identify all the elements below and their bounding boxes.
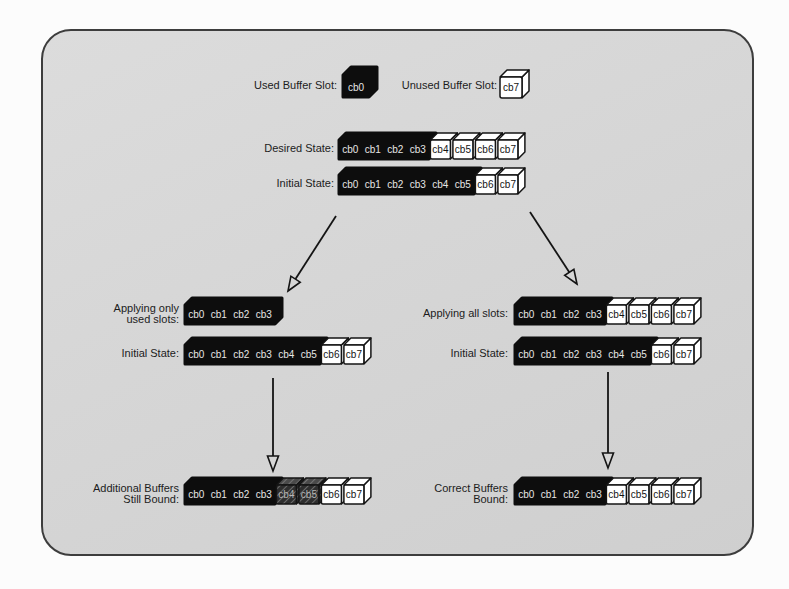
slot-label: cb0 xyxy=(188,309,205,320)
buffer-bar-initial-state-left: cb0cb1cb2cb3cb4cb5cb6cb7 xyxy=(183,336,383,368)
unused-slot-cube: cb7 xyxy=(344,338,371,364)
used-buffer-cube-icon: cb0 xyxy=(340,64,384,102)
row-label-initial-state-left: Initial State: xyxy=(122,348,179,360)
slot-label: cb7 xyxy=(500,179,517,190)
slot-label: cb3 xyxy=(586,489,603,500)
unused-slot-cube: cb7 xyxy=(674,338,701,364)
buffer-bar-additional-buffers-still-bound: cb0cb1cb2cb3cb4cb5cb6cb7 xyxy=(183,476,383,508)
row-label-line: Still Bound: xyxy=(93,494,179,506)
unused-slot-cube: cb7 xyxy=(674,478,701,504)
slot-label: cb6 xyxy=(477,179,494,190)
slot-label: cb5 xyxy=(631,349,648,360)
buffer-bar-initial-state-top: cb0cb1cb2cb3cb4cb5cb6cb7 xyxy=(337,166,537,198)
slot-label: cb2 xyxy=(563,349,580,360)
row-label-initial-state-top: Initial State: xyxy=(277,178,334,190)
slot-label: cb1 xyxy=(541,349,558,360)
slot-label: cb2 xyxy=(387,179,404,190)
buffer-bar-applying-all-slots: cb0cb1cb2cb3cb4cb5cb6cb7 xyxy=(513,296,713,328)
legend-used-label: Used Buffer Slot: xyxy=(254,80,337,92)
slot-label: cb2 xyxy=(563,489,580,500)
slot-label: cb6 xyxy=(323,489,340,500)
row-label-line: Initial State: xyxy=(277,178,334,190)
slot-label: cb1 xyxy=(541,309,558,320)
row-label-applying-all-slots: Applying all slots: xyxy=(423,308,508,320)
slot-label: cb0 xyxy=(342,144,359,155)
slot-label: cb4 xyxy=(608,309,625,320)
slot-label: cb0 xyxy=(188,349,205,360)
slot-label: cb6 xyxy=(653,489,670,500)
unused-cube-label: cb7 xyxy=(503,82,520,93)
slot-label: cb0 xyxy=(518,309,535,320)
slot-label: cb1 xyxy=(211,309,228,320)
slot-label: cb2 xyxy=(233,309,250,320)
slot-label: cb7 xyxy=(676,349,693,360)
slot-label: cb3 xyxy=(586,349,603,360)
slot-label: cb7 xyxy=(676,309,693,320)
slot-label: cb4 xyxy=(278,489,295,500)
unused-slot-cube: cb7 xyxy=(498,168,525,194)
row-label-line: Initial State: xyxy=(451,348,508,360)
slot-label: cb6 xyxy=(477,144,494,155)
slot-label: cb0 xyxy=(342,179,359,190)
slot-label: cb7 xyxy=(676,489,693,500)
slot-label: cb7 xyxy=(500,144,517,155)
buffer-bar-correct-buffers-bound: cb0cb1cb2cb3cb4cb5cb6cb7 xyxy=(513,476,713,508)
slot-label: cb2 xyxy=(387,144,404,155)
slot-label: cb6 xyxy=(653,309,670,320)
slot-label: cb5 xyxy=(631,309,648,320)
row-label-initial-state-right: Initial State: xyxy=(451,348,508,360)
slot-label: cb3 xyxy=(256,349,273,360)
slot-label: cb1 xyxy=(211,489,228,500)
slot-label: cb0 xyxy=(518,489,535,500)
row-label-line: used slots: xyxy=(114,314,179,326)
slot-label: cb4 xyxy=(432,144,449,155)
slot-label: cb4 xyxy=(278,349,295,360)
slot-label: cb6 xyxy=(323,349,340,360)
slot-label: cb3 xyxy=(256,489,273,500)
slot-label: cb6 xyxy=(653,349,670,360)
unused-slot-cube: cb7 xyxy=(498,133,525,159)
slot-label: cb2 xyxy=(563,309,580,320)
row-label-additional-buffers-still-bound: Additional BuffersStill Bound: xyxy=(93,483,179,506)
slot-label: cb5 xyxy=(301,489,318,500)
slot-label: cb2 xyxy=(233,349,250,360)
slot-label: cb1 xyxy=(541,489,558,500)
slot-label: cb2 xyxy=(233,489,250,500)
slot-label: cb5 xyxy=(301,349,318,360)
slot-label: cb5 xyxy=(631,489,648,500)
unused-slot-cube: cb7 xyxy=(344,478,371,504)
slot-label: cb1 xyxy=(365,179,382,190)
slot-label: cb4 xyxy=(608,349,625,360)
row-label-line: Desired State: xyxy=(264,143,334,155)
slot-label: cb7 xyxy=(346,489,363,500)
row-label-line: Initial State: xyxy=(122,348,179,360)
legend-unused-label: Unused Buffer Slot: xyxy=(402,80,497,92)
row-label-line: Bound: xyxy=(434,494,508,506)
slot-label: cb5 xyxy=(455,179,472,190)
row-label-line: Applying all slots: xyxy=(423,308,508,320)
buffer-bar-applying-only-used: cb0cb1cb2cb3 xyxy=(183,296,383,328)
slot-label: cb3 xyxy=(410,179,427,190)
slot-label: cb4 xyxy=(608,489,625,500)
used-cube-label: cb0 xyxy=(348,82,365,93)
buffer-bar-initial-state-right: cb0cb1cb2cb3cb4cb5cb6cb7 xyxy=(513,336,713,368)
slot-label: cb0 xyxy=(518,349,535,360)
slot-label: cb3 xyxy=(410,144,427,155)
row-label-desired-state: Desired State: xyxy=(264,143,334,155)
slot-label: cb1 xyxy=(365,144,382,155)
slot-label: cb3 xyxy=(256,309,273,320)
slot-label: cb7 xyxy=(346,349,363,360)
slot-label: cb5 xyxy=(455,144,472,155)
slot-label: cb0 xyxy=(188,489,205,500)
slot-label: cb4 xyxy=(432,179,449,190)
row-label-correct-buffers-bound: Correct BuffersBound: xyxy=(434,483,508,506)
figure-canvas: Used Buffer Slot: cb0 Unused Buffer Slot… xyxy=(0,0,789,589)
unused-buffer-cube-icon: cb7 xyxy=(498,68,534,102)
row-label-applying-only-used: Applying onlyused slots: xyxy=(114,303,179,326)
slot-label: cb3 xyxy=(586,309,603,320)
unused-slot-cube: cb7 xyxy=(674,298,701,324)
buffer-bar-desired-state: cb0cb1cb2cb3cb4cb5cb6cb7 xyxy=(337,131,537,163)
slot-label: cb1 xyxy=(211,349,228,360)
